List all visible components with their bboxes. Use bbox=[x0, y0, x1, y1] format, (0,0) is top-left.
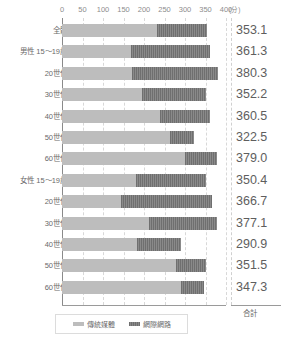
total-value: 322.5 bbox=[236, 129, 267, 146]
bar-segment-traditional-media[interactable] bbox=[62, 45, 131, 58]
bar-segment-internet[interactable] bbox=[131, 45, 210, 58]
stacked-bar[interactable] bbox=[62, 131, 194, 144]
category-label: 30世代 bbox=[0, 217, 67, 230]
total-column-header: 合計 bbox=[243, 308, 257, 320]
legend-swatch-traditional-media-icon bbox=[73, 322, 84, 326]
chart-row: 20世代380.3 bbox=[0, 67, 282, 80]
category-label: 20世代 bbox=[0, 195, 67, 208]
bar-segment-internet[interactable] bbox=[136, 174, 206, 187]
chart-row: 40世代360.5 bbox=[0, 110, 282, 123]
legend-item-traditional-media[interactable]: 傳統媒體 bbox=[73, 319, 115, 329]
stacked-bar[interactable] bbox=[62, 174, 206, 187]
stacked-bar[interactable] bbox=[62, 88, 206, 101]
category-label: 男性 15～19歲 bbox=[0, 45, 67, 58]
bar-segment-traditional-media[interactable] bbox=[62, 217, 149, 230]
total-value: 361.3 bbox=[236, 43, 267, 60]
legend-label-traditional-media: 傳統媒體 bbox=[87, 319, 115, 329]
x-tick-label-50: 50 bbox=[78, 5, 86, 15]
bar-segment-internet[interactable] bbox=[137, 238, 181, 251]
bar-segment-internet[interactable] bbox=[170, 131, 194, 144]
x-axis-baseline bbox=[62, 305, 226, 306]
total-column-rule bbox=[231, 305, 281, 306]
bar-segment-internet[interactable] bbox=[176, 259, 207, 272]
bar-segment-internet[interactable] bbox=[121, 195, 212, 208]
bar-segment-internet[interactable] bbox=[160, 110, 209, 123]
bar-segment-traditional-media[interactable] bbox=[62, 174, 136, 187]
chart-row: 50世代322.5 bbox=[0, 131, 282, 144]
total-value: 353.1 bbox=[236, 22, 267, 39]
bar-segment-traditional-media[interactable] bbox=[62, 281, 181, 294]
category-label: 60世代 bbox=[0, 152, 67, 165]
x-tick-label-200: 200 bbox=[138, 5, 151, 15]
x-tick-label-150: 150 bbox=[117, 5, 130, 15]
category-label: 40世代 bbox=[0, 110, 67, 123]
legend-swatch-internet-icon bbox=[129, 322, 140, 326]
x-tick-label-250: 250 bbox=[158, 5, 171, 15]
chart-row: 30世代377.1 bbox=[0, 217, 282, 230]
chart-legend: 傳統媒體 網際網路 bbox=[55, 314, 188, 334]
stacked-bar[interactable] bbox=[62, 259, 206, 272]
category-label: 60世代 bbox=[0, 281, 67, 294]
bar-segment-internet[interactable] bbox=[185, 152, 218, 165]
chart-row: 50世代351.5 bbox=[0, 259, 282, 272]
stacked-bar[interactable] bbox=[62, 281, 204, 294]
bar-segment-internet[interactable] bbox=[132, 67, 218, 80]
chart-row: 全體353.1 bbox=[0, 24, 282, 37]
category-label: 全體 bbox=[0, 24, 67, 37]
x-tick-label-0: 0 bbox=[60, 5, 64, 15]
total-value: 350.4 bbox=[236, 172, 267, 189]
x-axis-tick-labels: 050100150200250300350400(分) bbox=[0, 5, 282, 17]
stacked-bar[interactable] bbox=[62, 195, 212, 208]
x-axis-unit-label: (分) bbox=[229, 5, 240, 15]
bar-segment-internet[interactable] bbox=[149, 217, 217, 230]
total-value: 377.1 bbox=[236, 215, 267, 232]
category-label: 女性 15～19歲 bbox=[0, 174, 67, 187]
x-tick-label-300: 300 bbox=[179, 5, 192, 15]
chart-row: 女性 15～19歲350.4 bbox=[0, 174, 282, 187]
category-label: 50世代 bbox=[0, 131, 67, 144]
category-label: 50世代 bbox=[0, 259, 67, 272]
bar-segment-traditional-media[interactable] bbox=[62, 195, 121, 208]
stacked-bar[interactable] bbox=[62, 110, 210, 123]
stacked-bar-chart: 050100150200250300350400(分) 全體353.1男性 15… bbox=[0, 0, 282, 341]
category-label: 20世代 bbox=[0, 67, 67, 80]
chart-row: 60世代347.3 bbox=[0, 281, 282, 294]
bar-segment-traditional-media[interactable] bbox=[62, 110, 160, 123]
x-tick-label-350: 350 bbox=[199, 5, 212, 15]
total-value: 366.7 bbox=[236, 193, 267, 210]
stacked-bar[interactable] bbox=[62, 67, 218, 80]
bar-segment-traditional-media[interactable] bbox=[62, 131, 170, 144]
chart-row: 60世代379.0 bbox=[0, 152, 282, 165]
total-value: 360.5 bbox=[236, 108, 267, 125]
bar-segment-internet[interactable] bbox=[142, 88, 207, 101]
total-value: 347.3 bbox=[236, 279, 267, 296]
bar-segment-traditional-media[interactable] bbox=[62, 259, 176, 272]
chart-row: 30世代352.2 bbox=[0, 88, 282, 101]
bar-segment-internet[interactable] bbox=[181, 281, 204, 294]
bar-segment-traditional-media[interactable] bbox=[62, 152, 185, 165]
stacked-bar[interactable] bbox=[62, 152, 217, 165]
chart-row: 男性 15～19歲361.3 bbox=[0, 45, 282, 58]
stacked-bar[interactable] bbox=[62, 217, 217, 230]
bar-segment-traditional-media[interactable] bbox=[62, 67, 132, 80]
bar-segment-traditional-media[interactable] bbox=[62, 88, 142, 101]
total-value: 290.9 bbox=[236, 236, 267, 253]
legend-item-internet[interactable]: 網際網路 bbox=[129, 319, 171, 329]
chart-row: 40世代290.9 bbox=[0, 238, 282, 251]
total-value: 379.0 bbox=[236, 150, 267, 167]
category-label: 30世代 bbox=[0, 88, 67, 101]
bar-segment-traditional-media[interactable] bbox=[62, 24, 157, 37]
stacked-bar[interactable] bbox=[62, 45, 210, 58]
x-tick-label-100: 100 bbox=[97, 5, 110, 15]
bar-segment-traditional-media[interactable] bbox=[62, 238, 137, 251]
stacked-bar[interactable] bbox=[62, 238, 181, 251]
total-value: 380.3 bbox=[236, 65, 267, 82]
total-value: 351.5 bbox=[236, 257, 267, 274]
stacked-bar[interactable] bbox=[62, 24, 207, 37]
total-value: 352.2 bbox=[236, 86, 267, 103]
chart-row: 20世代366.7 bbox=[0, 195, 282, 208]
legend-label-internet: 網際網路 bbox=[143, 319, 171, 329]
bar-segment-internet[interactable] bbox=[157, 24, 207, 37]
category-label: 40世代 bbox=[0, 238, 67, 251]
